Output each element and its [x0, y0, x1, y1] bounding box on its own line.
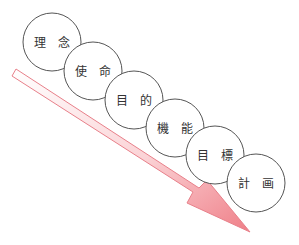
circle-label-char: 理 — [34, 36, 46, 50]
circle-label-char: 使 — [75, 64, 87, 79]
circle-label-char: 目 — [116, 94, 128, 108]
circle-label-char: 機 — [157, 121, 169, 136]
circle-label-char: 命 — [99, 64, 111, 79]
circle-label-char: 標 — [221, 149, 233, 163]
circle-label-char: 画 — [262, 177, 274, 191]
concept-circle: 計画 — [227, 154, 285, 212]
circle-label-char: 目 — [197, 149, 209, 163]
circle-label-char: 的 — [140, 93, 152, 108]
circle-label-char: 念 — [58, 35, 70, 50]
circle-shape — [227, 154, 285, 212]
circle-label-char: 計 — [238, 176, 250, 191]
circle-label-char: 能 — [181, 122, 193, 136]
hierarchy-diagram: 理念使命目的機能目標計画 — [0, 0, 299, 245]
